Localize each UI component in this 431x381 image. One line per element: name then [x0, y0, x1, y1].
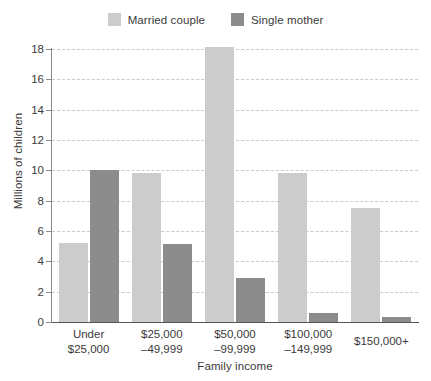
y-tick-label: 0: [0, 316, 44, 328]
x-tick-label-line: $100,000: [272, 327, 345, 342]
x-tick-label: $100,000–149,999: [272, 327, 345, 356]
bar-married-couple: [59, 243, 88, 322]
y-tick-label: 4: [0, 255, 44, 267]
y-tick-label: 16: [0, 73, 44, 85]
x-axis-tick-labels: Under$25,000$25,000–49,999$50,000–99,999…: [52, 327, 418, 359]
bar-married-couple: [278, 173, 307, 322]
y-tick-mark: [46, 79, 52, 80]
x-tick-label: Under$25,000: [52, 327, 125, 356]
legend-label-married-couple: Married couple: [128, 14, 205, 26]
bar-single-mother: [90, 170, 119, 322]
y-tick-mark: [46, 110, 52, 111]
x-tick-label: $25,000–49,999: [125, 327, 198, 356]
x-tick-label-line: –149,999: [272, 342, 345, 357]
y-tick-mark: [46, 231, 52, 232]
bar-single-mother: [309, 313, 338, 322]
legend-item-single-mother: Single mother: [231, 13, 323, 26]
bar-single-mother: [382, 317, 411, 322]
x-tick-label-line: –49,999: [125, 342, 198, 357]
legend-item-married-couple: Married couple: [108, 13, 205, 26]
legend-swatch-married-couple-icon: [108, 13, 121, 26]
bar-group: [52, 49, 125, 322]
bar-married-couple: [351, 208, 380, 322]
y-tick-mark: [46, 170, 52, 171]
y-tick-label: 18: [0, 43, 44, 55]
bar-group: [198, 49, 271, 322]
bar-married-couple: [132, 173, 161, 322]
bar-married-couple: [205, 47, 234, 322]
x-tick-label-line: –99,999: [198, 342, 271, 357]
legend-swatch-single-mother-icon: [231, 13, 244, 26]
x-tick-label: $150,000+: [345, 334, 418, 349]
x-tick-label-line: $25,000: [125, 327, 198, 342]
y-tick-mark: [46, 49, 52, 50]
x-tick-label: $50,000–99,999: [198, 327, 271, 356]
chart-legend: Married couple Single mother: [0, 13, 431, 26]
bar-group: [345, 49, 418, 322]
y-tick-mark: [46, 322, 52, 323]
x-tick-label-line: $150,000+: [345, 334, 418, 349]
y-tick-mark: [46, 140, 52, 141]
bar-single-mother: [236, 278, 265, 322]
bar-single-mother: [163, 244, 192, 322]
x-tick-label-line: $50,000: [198, 327, 271, 342]
x-tick-label-line: $25,000: [52, 342, 125, 357]
legend-label-single-mother: Single mother: [251, 14, 323, 26]
x-axis-title: Family income: [52, 360, 418, 372]
y-tick-mark: [46, 201, 52, 202]
bar-group: [272, 49, 345, 322]
x-tick-label-line: Under: [52, 327, 125, 342]
y-axis-title: Millions of children: [12, 91, 24, 231]
y-tick-mark: [46, 292, 52, 293]
bar-group: [125, 49, 198, 322]
y-tick-mark: [46, 261, 52, 262]
x-axis-line: [51, 322, 419, 323]
bar-series-container: [52, 49, 418, 322]
y-tick-label: 2: [0, 286, 44, 298]
